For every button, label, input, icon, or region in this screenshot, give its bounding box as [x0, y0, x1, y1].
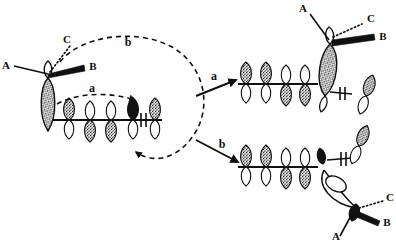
orbital-rearrangement-figure: A B C a b a b: [0, 0, 396, 241]
label-transition-b: b: [219, 137, 226, 151]
label-a-left: A: [2, 59, 10, 71]
label-c-bottom-right: C: [386, 191, 394, 203]
label-pathway-a-curve: a: [89, 81, 95, 95]
label-pathway-b-curve: b: [125, 35, 132, 49]
label-a-top-right: A: [299, 2, 307, 14]
label-b-left: B: [89, 60, 97, 72]
label-a-bottom-right: A: [332, 230, 340, 241]
diagram-canvas: A B C a b a b: [0, 0, 396, 241]
label-c-left: C: [63, 33, 71, 45]
label-b-bottom-right: B: [383, 216, 391, 228]
label-b-top-right: B: [379, 30, 387, 42]
label-c-top-right: C: [367, 12, 375, 24]
label-transition-a: a: [211, 69, 217, 83]
